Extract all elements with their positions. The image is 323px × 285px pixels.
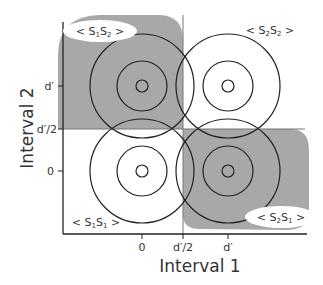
distribution-s2s2 xyxy=(176,34,280,138)
y-axis-title: Interval 2 xyxy=(17,87,37,168)
diagram-canvas: 0 d′/2 d′ 0 d′/2 d′ Interval 1 Interval … xyxy=(0,0,323,285)
y-tick-label-0: 0 xyxy=(47,165,54,178)
y-tick-label-half: d′/2 xyxy=(37,123,57,136)
condition-label-s1s2: < S1S2 > xyxy=(76,25,124,39)
condition-label-s1s1: < S1S1 > xyxy=(72,216,120,230)
condition-label-s2s2: < S2S2 > xyxy=(246,24,294,38)
x-tick-label-d: d′ xyxy=(223,241,233,254)
x-axis-title: Interval 1 xyxy=(159,256,240,276)
condition-label-s2s1: < S2S1 > xyxy=(257,211,305,225)
x-tick-label-half: d′/2 xyxy=(173,241,193,254)
distribution-s1s1 xyxy=(90,119,194,223)
y-tick-label-d: d′ xyxy=(45,80,55,93)
x-tick-label-0: 0 xyxy=(139,241,146,254)
